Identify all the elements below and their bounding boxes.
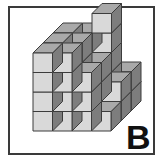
cube-front-face bbox=[92, 14, 112, 34]
cube-front-face bbox=[33, 73, 53, 93]
cube-front-face bbox=[33, 92, 53, 112]
option-label: B bbox=[126, 120, 151, 154]
cube-front-face bbox=[33, 112, 53, 132]
cube-front-face bbox=[33, 53, 53, 73]
